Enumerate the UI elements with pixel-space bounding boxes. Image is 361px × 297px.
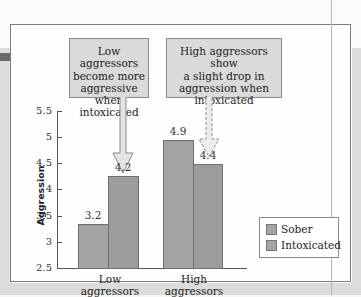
annotation-low-aggressors: Low aggressors become more aggressive wh… <box>69 38 149 98</box>
legend-swatch-icon <box>266 240 277 251</box>
legend-swatch-icon <box>266 224 277 235</box>
annotation-line: become more <box>70 70 148 82</box>
annotation-line: High aggressors show <box>167 45 281 70</box>
bar-low-intoxicated <box>108 176 139 269</box>
y-tick <box>57 189 62 190</box>
legend-item-intoxicated: Intoxicated <box>266 239 341 251</box>
y-tick-label: 3 <box>22 237 52 247</box>
y-tick <box>57 137 62 138</box>
bar-value-label: 4.9 <box>163 125 193 137</box>
y-tick-label: 2.5 <box>22 263 52 273</box>
y-tick <box>57 163 62 164</box>
annotation-high-aggressors: High aggressors show a slight drop in ag… <box>166 38 282 98</box>
legend: Sober Intoxicated <box>259 217 339 258</box>
annotation-line: intoxicated <box>70 106 148 118</box>
bar-high-intoxicated <box>193 164 223 269</box>
bar-value-label: 4.4 <box>193 149 223 161</box>
bar-low-sober <box>78 224 109 269</box>
annotation-line: a slight drop in <box>167 70 281 82</box>
annotation-line: aggression when <box>167 82 281 94</box>
legend-label: Sober <box>281 223 312 235</box>
y-tick <box>57 111 62 112</box>
legend-item-sober: Sober <box>266 223 312 235</box>
y-tick-label: 5.5 <box>22 106 52 116</box>
x-category-label: Low aggressors <box>68 273 152 297</box>
y-tick-label: 5 <box>22 132 52 142</box>
legend-label: Intoxicated <box>281 239 341 251</box>
annotation-line: aggressive when <box>70 82 148 107</box>
y-tick <box>57 242 62 243</box>
page-side-band-right <box>352 48 361 295</box>
x-category-label: High aggressors <box>154 273 234 297</box>
y-tick <box>57 216 62 217</box>
annotation-line: Low aggressors <box>70 45 148 70</box>
annotation-line: intoxicated <box>167 94 281 106</box>
y-axis-label: Aggression <box>35 166 46 226</box>
bar-value-label: 3.2 <box>78 209 108 221</box>
y-axis <box>57 111 58 269</box>
bar-high-sober <box>163 140 194 269</box>
bar-value-label: 4.2 <box>108 161 138 173</box>
